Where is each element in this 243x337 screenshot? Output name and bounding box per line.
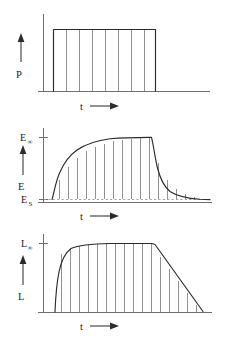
right-arrow-icon xyxy=(110,323,119,330)
panel-e-es-sub: S xyxy=(29,200,33,208)
panel-l-hatch-group xyxy=(62,244,197,313)
panel-e-y-label: E xyxy=(18,181,24,192)
figure-root: P t xyxy=(0,0,243,337)
panel-e-einf-sub: ∞ xyxy=(28,138,33,146)
up-arrow-icon xyxy=(18,33,25,42)
panel-e-es-label-group: E S xyxy=(21,194,33,208)
panel-p-y-label: P xyxy=(16,69,22,80)
panel-l-y-arrow xyxy=(20,255,27,285)
panel-p-y-arrow xyxy=(18,33,25,62)
panel-l-linf-base: L xyxy=(21,238,27,249)
panel-l-linf-label-group: L ∞ xyxy=(21,238,33,252)
panel-l-x-label: t xyxy=(80,321,83,332)
panel-p-x-arrow xyxy=(90,103,119,110)
panel-l-y-label: L xyxy=(18,291,24,302)
panel-l: L ∞ L t xyxy=(18,234,212,332)
panel-l-x-arrow xyxy=(90,323,119,330)
up-arrow-icon xyxy=(20,145,27,154)
panel-e-hatch-group xyxy=(60,138,195,200)
panel-e-x-label: t xyxy=(80,211,83,222)
right-arrow-icon xyxy=(110,103,119,110)
panel-p-hatch-group xyxy=(67,30,145,91)
three-panel-diagram: P t xyxy=(0,0,243,337)
panel-l-linf-sub: ∞ xyxy=(28,244,33,252)
panel-p: P t xyxy=(16,14,210,112)
panel-e-curve xyxy=(52,137,210,199)
panel-p-pulse-curve xyxy=(54,30,156,92)
right-arrow-icon xyxy=(110,213,119,220)
panel-l-curve xyxy=(55,244,203,313)
panel-e-einf-label-group: E ∞ xyxy=(20,132,33,146)
panel-e-einf-base: E xyxy=(20,132,26,143)
panel-e-y-arrow xyxy=(20,145,27,175)
panel-p-x-label: t xyxy=(80,101,83,112)
panel-e: E ∞ E S E t xyxy=(18,128,212,222)
up-arrow-icon xyxy=(20,255,27,264)
panel-e-x-arrow xyxy=(90,213,119,220)
panel-e-es-base: E xyxy=(21,194,27,205)
